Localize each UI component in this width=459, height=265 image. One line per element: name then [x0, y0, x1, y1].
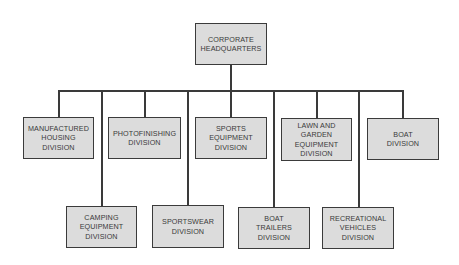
box-label: BOAT DIVISION — [387, 130, 419, 149]
connector-boat — [402, 90, 404, 119]
connector-sportswear — [187, 90, 189, 206]
box-lawn-garden-equipment-division: LAWN AND GARDEN EQUIPMENT DIVISION — [281, 118, 352, 161]
box-label: RECREATIONAL VEHICLES DIVISION — [330, 214, 387, 243]
box-label: LAWN AND GARDEN EQUIPMENT DIVISION — [295, 121, 339, 159]
box-label: CAMPING EQUIPMENT DIVISION — [80, 213, 124, 242]
connector-hq-down — [230, 64, 232, 91]
box-boat-division: BOAT DIVISION — [367, 118, 439, 160]
connector-manufactured-housing — [58, 90, 60, 118]
box-label: CORPORATE HEADQUARTERS — [201, 35, 262, 54]
box-corporate-headquarters: CORPORATE HEADQUARTERS — [195, 23, 267, 65]
box-camping-equipment-division: CAMPING EQUIPMENT DIVISION — [66, 206, 137, 248]
box-label: BOAT TRAILERS DIVISION — [256, 214, 292, 243]
connector-camping-equipment — [101, 90, 103, 207]
box-recreational-vehicles-division: RECREATIONAL VEHICLES DIVISION — [322, 207, 394, 249]
box-label: PHOTOFINISHING DIVISION — [113, 129, 176, 148]
connector-boat-trailers — [273, 90, 275, 208]
connector-photofinishing — [144, 90, 146, 118]
box-photofinishing-division: PHOTOFINISHING DIVISION — [108, 117, 181, 159]
box-manufactured-housing-division: MANUFACTURED HOUSING DIVISION — [23, 117, 94, 159]
box-label: SPORTS EQUIPMENT DIVISION — [209, 124, 253, 153]
box-boat-trailers-division: BOAT TRAILERS DIVISION — [238, 207, 310, 249]
box-label: SPORTSWEAR DIVISION — [162, 217, 214, 236]
box-sportswear-division: SPORTSWEAR DIVISION — [152, 205, 224, 248]
connector-lawn-garden-equipment — [316, 90, 318, 119]
connector-sports-equipment — [230, 90, 232, 118]
connector-recreational-vehicles — [358, 90, 360, 208]
box-sports-equipment-division: SPORTS EQUIPMENT DIVISION — [195, 117, 267, 159]
box-label: MANUFACTURED HOUSING DIVISION — [28, 124, 89, 153]
org-chart: CORPORATE HEADQUARTERS MANUFACTURED HOUS… — [0, 0, 459, 265]
